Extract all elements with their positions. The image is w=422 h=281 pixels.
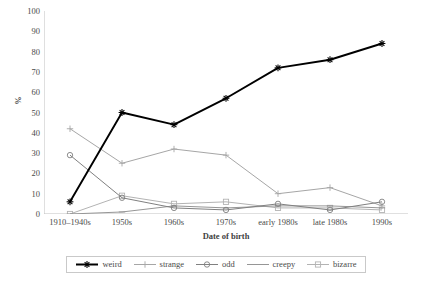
legend-label: bizarre	[333, 260, 357, 269]
legend-label: strange	[160, 260, 185, 269]
y-axis-tick-label: 100	[14, 7, 40, 15]
legend-item-bizarre[interactable]: bizarre	[306, 259, 357, 270]
x-axis-tick-label: 1990s	[372, 217, 392, 227]
legend-item-creepy[interactable]: creepy	[246, 259, 296, 270]
legend-swatch-strange	[133, 259, 157, 270]
x-axis-tick-label: 1970s	[216, 217, 236, 227]
y-axis-tick-label: 20	[14, 169, 40, 177]
x-axis-title: Date of birth	[44, 231, 408, 241]
series-line	[70, 43, 382, 201]
series-weird	[67, 40, 386, 205]
series-strange	[67, 126, 385, 210]
chart-svg	[44, 11, 408, 214]
legend-label: odd	[222, 260, 235, 269]
y-axis-tick-label: 40	[14, 129, 40, 137]
x-axis-tick-label: 1910–1940s	[49, 217, 91, 227]
x-axis-tick-label: early 1980s	[258, 217, 297, 227]
chart-figure: % 1009080706050403020100 1910–1940s1950s…	[0, 0, 422, 281]
plot-area	[44, 11, 408, 214]
legend-swatch-weird	[75, 259, 99, 270]
series-line	[70, 129, 382, 206]
x-axis-tick-label: 1960s	[164, 217, 184, 227]
legend-label: creepy	[273, 260, 296, 269]
legend-label: weird	[102, 260, 121, 269]
y-axis-tick-label: 90	[14, 27, 40, 35]
x-axis-tick-label: late 1980s	[313, 217, 348, 227]
series-bizarre	[67, 193, 384, 214]
legend-swatch-creepy	[246, 259, 270, 270]
legend-swatch-odd	[195, 259, 219, 270]
legend-item-strange[interactable]: strange	[133, 259, 185, 270]
y-axis-tick-label: 0	[14, 210, 40, 218]
y-axis-tick-label: 80	[14, 48, 40, 56]
legend-swatch-bizarre	[306, 259, 330, 270]
x-axis-tick-labels: 1910–1940s1950s1960s1970searly 1980slate…	[44, 217, 408, 231]
y-axis-tick-label: 50	[14, 109, 40, 117]
y-axis-tick-label: 70	[14, 68, 40, 76]
y-axis-tick-label: 30	[14, 149, 40, 157]
chart-legend: weirdstrangeoddcreepybizarre	[66, 256, 366, 273]
y-axis-tick-label: 60	[14, 88, 40, 96]
legend-item-weird[interactable]: weird	[75, 259, 121, 270]
x-axis-tick-label: 1950s	[112, 217, 132, 227]
legend-item-odd[interactable]: odd	[195, 259, 235, 270]
series-odd	[67, 152, 384, 212]
y-axis-tick-label: 10	[14, 190, 40, 198]
y-axis-tick-labels: 1009080706050403020100	[14, 0, 40, 281]
